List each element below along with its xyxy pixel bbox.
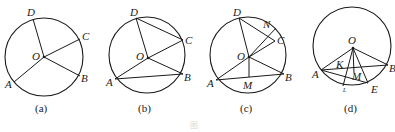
center-point: [248, 56, 251, 59]
label-o: O: [348, 34, 356, 46]
label-c: C: [82, 30, 90, 42]
label-b: B: [81, 72, 88, 84]
caption-b: (b): [138, 102, 151, 115]
radius-ob: [148, 58, 183, 74]
geometry-diagram: D C O A B (a) D C O A B (b) D N C: [0, 0, 395, 132]
label-o: O: [32, 50, 40, 62]
caption-a: (a): [35, 102, 48, 115]
label-a: A: [105, 76, 113, 88]
figure-a: D C O A B (a): [4, 6, 90, 115]
label-n: N: [262, 18, 271, 30]
label-a: A: [4, 78, 12, 90]
chord-dc: [136, 18, 183, 40]
label-b: B: [389, 62, 395, 74]
label-k: K: [335, 58, 344, 70]
caption-c: (c): [240, 102, 253, 115]
radius-oc: [44, 39, 80, 57]
caption-d: (d): [344, 102, 357, 115]
label-e: E: [370, 83, 378, 95]
label-d: D: [232, 6, 241, 18]
label-m: M: [242, 79, 253, 91]
label-a: A: [311, 68, 319, 80]
radius-oc: [148, 40, 183, 58]
segment-ob: [353, 48, 388, 65]
label-d: D: [129, 6, 138, 18]
label-b: B: [184, 71, 191, 83]
chord-ab: [115, 74, 183, 79]
center-point: [352, 47, 355, 50]
label-c: C: [185, 34, 193, 46]
label-m: M: [351, 70, 362, 82]
center-point: [147, 57, 150, 60]
radius-ob: [249, 57, 284, 74]
label-l: L: [342, 87, 347, 93]
label-o: O: [237, 50, 245, 62]
label-b: B: [285, 71, 292, 83]
figure-d: O K M A B E L (d): [311, 7, 395, 115]
label-d: D: [26, 6, 35, 18]
figure-c: D N C O A M B (c): [206, 6, 292, 115]
label-a: A: [206, 77, 214, 89]
radius-ob: [44, 57, 80, 76]
label-o: O: [136, 50, 144, 62]
label-c: C: [277, 34, 285, 46]
figure-b: D C O A B (b): [105, 6, 193, 115]
center-point: [43, 56, 46, 59]
figure-caption: 图: [190, 121, 198, 130]
